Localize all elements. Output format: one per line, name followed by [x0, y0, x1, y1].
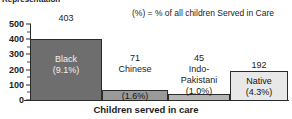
y-tick-label-100: 100	[9, 80, 24, 90]
bar-indo-pakistani-value: 45	[168, 53, 230, 64]
bar-native-value: 192	[230, 60, 288, 71]
bar-chinese-value: 71	[102, 53, 168, 64]
bar-black[interactable]: Black (9.1%)	[30, 39, 102, 101]
bar-chinese-category: Chinese	[102, 64, 168, 75]
y-tick-label-400: 400	[9, 34, 24, 44]
bar-black-category: Black	[31, 54, 101, 65]
bar-native-category: Native	[231, 76, 287, 87]
bar-black-value: 403	[30, 13, 102, 24]
bar-native[interactable]: Native (4.3%)	[230, 71, 288, 101]
y-tick-label-300: 300	[9, 49, 24, 59]
bar-native-percent: (4.3%)	[231, 87, 287, 98]
bar-indo-pakistani-percent: (1.0%)	[168, 86, 230, 97]
plot-area: Black (9.1%) 403 (1.6%) 71 Chinese 45 In…	[30, 24, 288, 101]
y-axis: 500 400 300 200 100 0	[0, 0, 24, 119]
bar-indo-pakistani-category-line2: Pakistani	[162, 75, 236, 86]
bar-chinese[interactable]: (1.6%)	[102, 90, 168, 101]
y-tick-label-200: 200	[9, 65, 24, 75]
bar-black-percent: (9.1%)	[31, 65, 101, 76]
y-tick-label-500: 500	[9, 19, 24, 29]
legend-note: (%) = % of all children Served in Care	[132, 8, 274, 18]
bar-chinese-percent: (1.6%)	[103, 91, 167, 102]
bar-indo-pakistani-category: Indo-	[168, 64, 230, 75]
x-axis-title: Children served in care	[0, 104, 292, 115]
bar-chart: Representation (%) = % of all children S…	[0, 0, 292, 119]
